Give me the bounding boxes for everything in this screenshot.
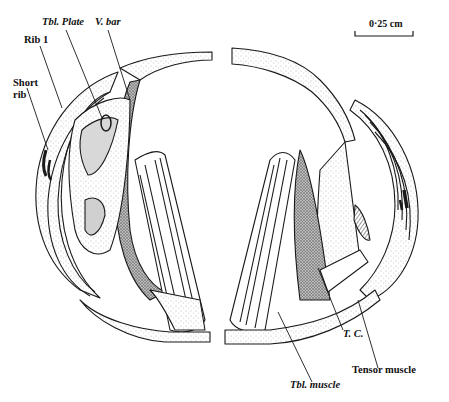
scale-bar-label: 0·25 cm — [369, 18, 403, 29]
label-rib-1: Rib 1 — [24, 34, 48, 46]
label-tc: T. C. — [343, 328, 363, 340]
label-tensor-muscle: Tensor muscle — [352, 364, 416, 376]
label-v-bar: V. bar — [95, 16, 121, 28]
label-short-rib-line1: Short — [13, 77, 38, 89]
label-tbl-muscle: Tbl. muscle — [290, 379, 340, 391]
right-half-drawing — [225, 48, 418, 344]
label-short-rib-line2: rib — [13, 89, 26, 101]
scale-bar — [355, 31, 413, 36]
anatomical-figure — [0, 0, 449, 402]
left-half-drawing — [36, 52, 212, 342]
label-tbl-plate: Tbl. Plate — [42, 16, 84, 28]
